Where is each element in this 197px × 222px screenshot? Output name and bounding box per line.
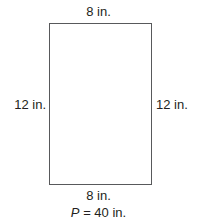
perimeter-value: = 40 in. (83, 205, 126, 220)
perimeter-annotation: P = 40 in. (0, 205, 197, 220)
top-side-length-label: 8 in. (0, 4, 197, 19)
right-side-length-label: 12 in. (156, 97, 188, 112)
perimeter-symbol: P (71, 205, 80, 220)
bottom-side-length-label: 8 in. (0, 188, 197, 203)
rectangle-shape (49, 23, 152, 185)
left-side-length-label: 12 in. (14, 97, 46, 112)
rectangle-perimeter-diagram: 8 in. 12 in. 12 in. 8 in. P = 40 in. (0, 0, 197, 222)
